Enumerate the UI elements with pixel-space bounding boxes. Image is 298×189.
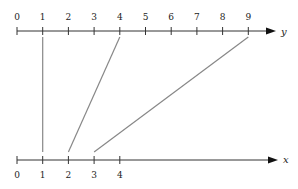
tick-label: 7 <box>194 12 200 22</box>
tick-label: 8 <box>220 12 226 22</box>
mapping-line <box>68 37 119 152</box>
tick-label: 2 <box>66 12 72 22</box>
arrow-right-icon <box>268 157 278 164</box>
tick-label: 9 <box>245 12 251 22</box>
tick-label: 3 <box>91 12 97 22</box>
tick-label: 1 <box>40 170 46 180</box>
tick-label: 0 <box>14 12 20 22</box>
mapping-diagram: y 0123456789 x 01234 <box>0 0 298 189</box>
top-axis-label: y <box>280 26 287 37</box>
top-axis-y: y 0123456789 <box>14 12 287 37</box>
tick-label: 5 <box>143 12 149 22</box>
tick-label: 0 <box>14 170 20 180</box>
mapping-lines <box>43 37 249 152</box>
tick-label: 3 <box>91 170 97 180</box>
tick-label: 4 <box>117 170 123 180</box>
mapping-line <box>94 37 248 152</box>
bottom-axis-label: x <box>283 154 289 165</box>
tick-label: 4 <box>117 12 123 22</box>
tick-label: 1 <box>40 12 46 22</box>
tick-label: 6 <box>168 12 174 22</box>
arrow-right-icon <box>266 28 276 35</box>
bottom-axis-x: x 01234 <box>14 154 289 180</box>
tick-label: 2 <box>66 170 72 180</box>
